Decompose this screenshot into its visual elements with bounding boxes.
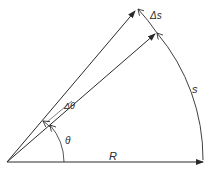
radius-vector-theta-plus-dtheta	[7, 11, 135, 162]
label-R: R	[109, 151, 117, 162]
label-s: s	[192, 84, 198, 95]
arc-s	[157, 33, 203, 160]
label-theta: θ	[65, 136, 70, 146]
radius-vector-theta	[7, 34, 155, 162]
diagram-canvas	[0, 0, 210, 172]
arc-theta	[50, 125, 64, 162]
arc-delta-theta	[43, 121, 50, 127]
label-delta-theta: Δθ	[64, 102, 75, 111]
label-delta-s: Δs	[150, 11, 162, 21]
arc-length-diagram: Δs s R θ Δθ	[0, 0, 210, 172]
